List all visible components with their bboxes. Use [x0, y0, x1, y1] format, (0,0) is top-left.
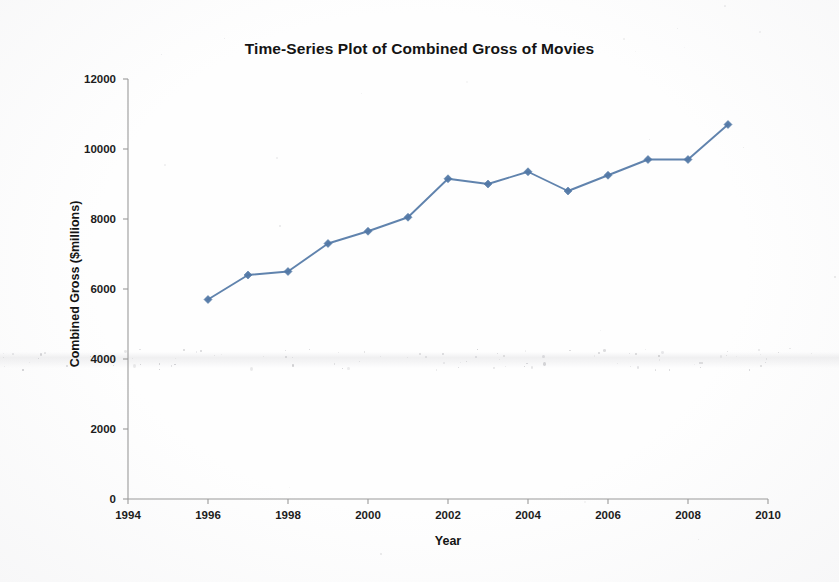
data-point-marker	[644, 156, 652, 164]
y-tick-label: 2000	[56, 423, 116, 435]
x-tick-label: 1996	[178, 509, 238, 521]
y-tick-label: 0	[56, 493, 116, 505]
data-point-marker	[564, 187, 572, 195]
x-tick-label: 2000	[338, 509, 398, 521]
data-point-marker	[484, 180, 492, 188]
x-tick-label: 2004	[498, 509, 558, 521]
data-point-marker	[604, 171, 612, 179]
y-axis-title: Combined Gross ($millions)	[68, 154, 82, 414]
x-axis-title: Year	[128, 534, 768, 548]
x-tick-label: 1998	[258, 509, 318, 521]
y-tick-label: 4000	[56, 353, 116, 365]
x-tick-label: 2006	[578, 509, 638, 521]
y-tick-label: 10000	[56, 143, 116, 155]
data-series-group	[204, 121, 732, 304]
x-tick-label: 2002	[418, 509, 478, 521]
y-tick-label: 6000	[56, 283, 116, 295]
chart-figure: Time-Series Plot of Combined Gross of Mo…	[0, 0, 839, 582]
y-tick-label: 8000	[56, 213, 116, 225]
data-point-marker	[364, 227, 372, 235]
x-tick-label: 1994	[98, 509, 158, 521]
x-tick-label: 2008	[658, 509, 718, 521]
plot-area	[0, 0, 839, 582]
x-tick-label: 2010	[738, 509, 798, 521]
y-tick-label: 12000	[56, 73, 116, 85]
data-point-marker	[524, 168, 532, 176]
